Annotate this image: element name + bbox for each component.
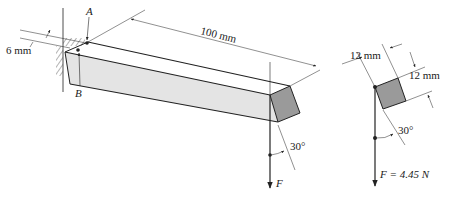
- label-angle-main: 30°: [290, 140, 305, 152]
- label-section-height: 12 mm: [409, 69, 440, 81]
- beam: [65, 42, 300, 122]
- label-offset-dim: 6 mm: [6, 44, 32, 56]
- label-angle-section: 30°: [398, 124, 413, 136]
- label-force-main: F: [275, 177, 283, 189]
- label-point-a: A: [85, 5, 93, 17]
- label-force-section: F = 4.45 N: [379, 168, 430, 180]
- label-length-dim: 100 mm: [200, 24, 239, 45]
- label-point-b: B: [75, 87, 82, 99]
- label-section-width: 12 mm: [350, 49, 381, 61]
- cross-section: [342, 44, 433, 186]
- cantilever-diagram: A B 6 mm 100 mm 30° F: [0, 0, 454, 198]
- force-main: [268, 62, 295, 188]
